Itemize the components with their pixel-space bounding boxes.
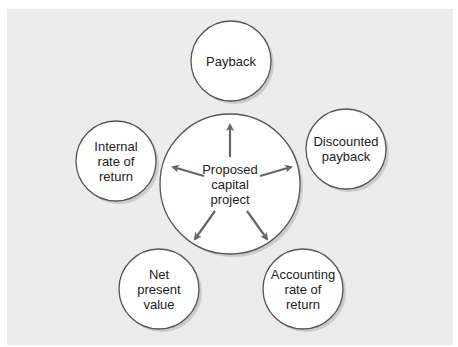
node-payback-label: Payback bbox=[191, 21, 271, 101]
node-discounted-payback-label: Discounted payback bbox=[306, 109, 386, 189]
node-accounting-rate-of-return-label: Accounting rate of return bbox=[263, 249, 343, 329]
node-proposed-capital-project-label: Proposed capital project bbox=[160, 114, 300, 254]
node-internal-rate-of-return-label: Internal rate of return bbox=[76, 121, 156, 201]
node-net-present-value-label: Net present value bbox=[119, 249, 199, 329]
